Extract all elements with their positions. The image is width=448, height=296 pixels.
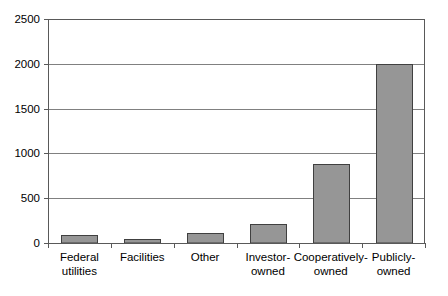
y-tick-label-2500: 2500 [14, 13, 40, 25]
y-tick-label-1000: 1000 [14, 147, 40, 159]
bar-federal-utilities [62, 236, 98, 244]
bar-cooperatively-owned [314, 165, 350, 244]
bar-facilities [125, 240, 161, 244]
category-label-line: Facilities [120, 251, 165, 263]
category-label-line: Cooperatively- [294, 251, 368, 263]
y-tick-label-0: 0 [34, 237, 40, 249]
chart-canvas: 05001000150020002500 FederalutilitiesFac… [0, 0, 448, 296]
category-label-other: Other [191, 251, 220, 263]
category-label-line: Investor- [246, 251, 291, 263]
category-label-line: Publicly- [372, 251, 416, 263]
category-label-line: owned [377, 265, 411, 277]
category-label-line: Other [191, 251, 220, 263]
bar-investor-owned [251, 225, 287, 244]
y-tick-label-1500: 1500 [14, 103, 40, 115]
y-tick-label-2000: 2000 [14, 58, 40, 70]
y-tick-label-500: 500 [21, 192, 40, 204]
category-label-line: owned [251, 265, 285, 277]
plot-area-background [48, 19, 425, 243]
category-label-facilities: Facilities [120, 251, 165, 263]
bar-chart: 05001000150020002500 FederalutilitiesFac… [0, 0, 448, 296]
category-label-line: Federal [60, 251, 99, 263]
category-label-line: utilities [62, 265, 97, 277]
category-label-line: owned [314, 265, 348, 277]
bar-other [188, 234, 224, 244]
bar-publicly-owned [377, 65, 413, 244]
